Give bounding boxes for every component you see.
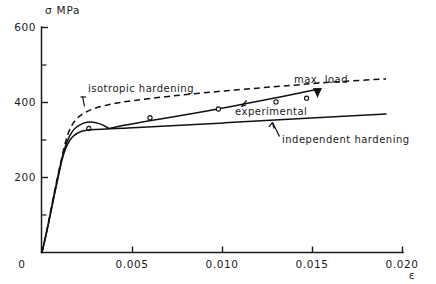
tick-labels-group: 600 400 200 0 0.005 0.010 0.015 0.020 xyxy=(14,21,418,270)
y-ticks-group xyxy=(42,28,49,216)
annotation-independent-hardening: independent hardening xyxy=(269,123,410,146)
y-axis-title: σ MPa xyxy=(45,4,80,16)
annotation-isotropic-hardening: isotropic hardening xyxy=(81,83,195,107)
annotation-isotropic-label: isotropic hardening xyxy=(88,83,194,94)
stress-strain-chart: 600 400 200 0 0.005 0.010 0.015 0.020 σ … xyxy=(0,0,436,284)
annotation-isotropic-leader xyxy=(83,97,85,107)
origin-label: 0 xyxy=(18,258,25,270)
annotation-experimental-label: experimental xyxy=(235,106,307,117)
annotation-independent-arrowhead-a xyxy=(273,123,275,129)
x-tick-label-0005: 0.005 xyxy=(115,258,148,270)
y-tick-label-200: 200 xyxy=(14,171,36,183)
data-point-marker xyxy=(305,96,309,100)
y-tick-label-600: 600 xyxy=(14,21,36,33)
annotation-independent-label: independent hardening xyxy=(282,134,410,145)
annotation-max-load-label: max. load xyxy=(294,74,348,85)
x-ticks-group xyxy=(133,247,403,253)
annotation-max-load: max. load xyxy=(294,74,348,98)
x-tick-label-0015: 0.015 xyxy=(295,258,328,270)
annotation-independent-arrowhead-b xyxy=(269,123,273,127)
x-tick-label-0010: 0.010 xyxy=(205,258,238,270)
y-tick-label-400: 400 xyxy=(14,96,36,108)
data-point-marker xyxy=(274,100,278,104)
x-axis-title: ε xyxy=(409,269,415,281)
data-point-marker xyxy=(148,116,152,120)
curve-isotropic-hardening xyxy=(42,79,386,252)
data-point-marker xyxy=(216,107,220,111)
chart-canvas: 600 400 200 0 0.005 0.010 0.015 0.020 σ … xyxy=(0,0,436,284)
